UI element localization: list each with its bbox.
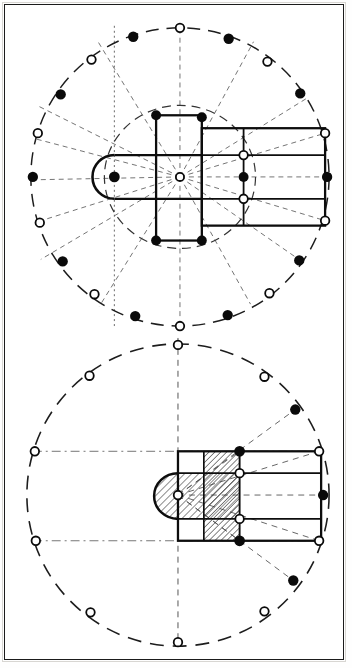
image-frame <box>4 4 344 660</box>
diagram-page <box>0 0 352 668</box>
upper-plan-outline <box>92 115 325 240</box>
upper-plan-diagram <box>5 5 343 659</box>
